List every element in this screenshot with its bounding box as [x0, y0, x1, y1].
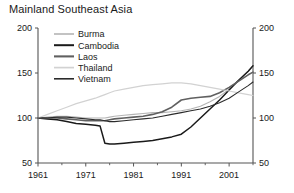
chart-figure: Mainland Southeast Asia 5050100100150150…	[0, 0, 294, 193]
x-axis-tick-label: 1961	[28, 170, 48, 180]
y-axis-tick-label-left: 150	[17, 68, 32, 78]
series-line-cambodia	[38, 66, 253, 144]
x-axis-tick-label: 1991	[171, 170, 191, 180]
y-axis-tick-label-left: 100	[17, 113, 32, 123]
x-axis-tick-label: 1971	[76, 170, 96, 180]
legend-label-laos: Laos	[78, 52, 98, 62]
y-axis-tick-label-left: 50	[22, 158, 32, 168]
legend-label-cambodia: Cambodia	[78, 41, 119, 51]
y-axis-tick-label-right: 200	[259, 23, 274, 33]
y-axis-tick-label-right: 100	[259, 113, 274, 123]
y-axis-tick-label-right: 50	[259, 158, 269, 168]
legend-label-thailand: Thailand	[78, 63, 113, 73]
axes-group: 5050100100150150200200196119711981199120…	[17, 23, 274, 180]
legend-label-burma: Burma	[78, 29, 105, 39]
chart-legend: BurmaCambodiaLaosThailandVietnam	[54, 29, 119, 84]
data-series-group	[38, 66, 253, 144]
x-axis-tick-label: 2001	[219, 170, 239, 180]
y-axis-tick-label-right: 150	[259, 68, 274, 78]
y-axis-tick-label-left: 200	[17, 23, 32, 33]
legend-label-vietnam: Vietnam	[78, 74, 111, 84]
x-axis-tick-label: 1981	[124, 170, 144, 180]
line-chart-plot: 5050100100150150200200196119711981199120…	[0, 0, 294, 193]
